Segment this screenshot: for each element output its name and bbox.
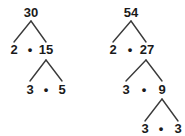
branch-27-to-9 — [146, 60, 162, 81]
node-9: 9 — [158, 83, 165, 96]
times-dot-54: • — [128, 43, 133, 56]
branch-9-to-3-left — [145, 99, 162, 121]
node-27: 27 — [140, 43, 154, 56]
factor-trees-canvas: 30 2 • 15 3 • 5 54 2 • 27 3 • 9 3 — [0, 0, 185, 136]
branch-54-to-2 — [113, 21, 131, 42]
node-3-left-27: 3 — [122, 83, 129, 96]
times-dot-9: • — [159, 122, 164, 135]
node-3-right-9: 3 — [174, 122, 181, 135]
node-54: 54 — [124, 6, 138, 19]
times-dot-27: • — [142, 83, 147, 96]
node-2-left-54: 2 — [109, 43, 116, 56]
branch-54-to-27 — [131, 21, 146, 42]
branch-9-to-3-right — [162, 99, 178, 121]
factor-tree-54: 54 2 • 27 3 • 9 3 • 3 — [0, 0, 185, 136]
node-3-left-9: 3 — [141, 122, 148, 135]
branch-27-to-3 — [126, 60, 146, 81]
factor-tree-54-branches — [0, 0, 185, 136]
